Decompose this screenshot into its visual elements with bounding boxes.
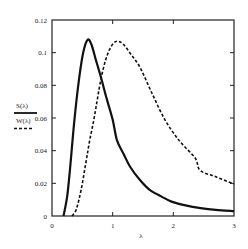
- series-line-w: [72, 41, 234, 216]
- y-axis-ticks: 00.020.040.060.080.10.12: [35, 17, 234, 221]
- y-tick-label: 0.02: [35, 180, 48, 188]
- x-tick-label: 2: [172, 222, 176, 230]
- chart: 0123 00.020.040.060.080.10.12 λ S(λ) W(λ…: [0, 0, 248, 249]
- plot-frame: [52, 20, 234, 216]
- x-axis-label: λ: [139, 232, 143, 240]
- x-tick-label: 3: [232, 222, 236, 230]
- x-axis-ticks: 0123: [50, 20, 236, 230]
- y-tick-label: 0.08: [35, 82, 48, 90]
- y-tick-label: 0.06: [35, 115, 48, 123]
- y-tick-label: 0: [44, 213, 48, 221]
- legend-label-w: W(λ): [16, 117, 31, 125]
- y-tick-label: 0.1: [38, 49, 47, 57]
- x-tick-label: 1: [111, 222, 115, 230]
- series-line-s: [64, 39, 234, 216]
- legend-label-s: S(λ): [16, 102, 29, 110]
- x-tick-label: 0: [50, 222, 54, 230]
- y-tick-label: 0.04: [35, 147, 48, 155]
- y-tick-label: 0.12: [35, 17, 48, 25]
- series-layer: [64, 39, 234, 216]
- legend: S(λ) W(λ): [14, 102, 37, 129]
